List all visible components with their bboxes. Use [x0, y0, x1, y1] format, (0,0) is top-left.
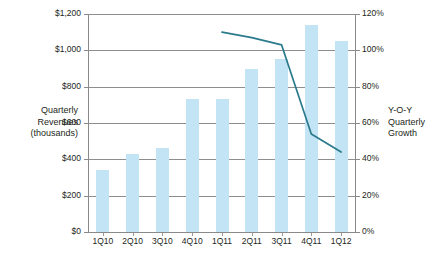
right-axis-tick — [356, 159, 360, 160]
right-axis-tick-label: 100% — [362, 45, 384, 54]
right-axis-tick — [356, 14, 360, 15]
right-axis-tick-label: 120% — [362, 9, 384, 18]
right-axis-tick-label: 80% — [362, 82, 379, 91]
right-axis-tick — [356, 196, 360, 197]
left-axis-tick-label: $1,000 — [55, 45, 81, 54]
left-axis-tick-label: $600 — [62, 118, 81, 127]
right-axis-tick-label: 20% — [362, 191, 379, 200]
growth-line-path — [222, 32, 341, 152]
growth-line-series — [88, 14, 356, 233]
right-axis-tick — [356, 232, 360, 233]
right-axis-tick — [356, 87, 360, 88]
right-axis-tick-label: 0% — [362, 227, 374, 236]
chart-container: Quarterly Revenues (thousands) Y-O-Y Qua… — [0, 0, 430, 254]
right-axis-tick — [356, 123, 360, 124]
left-axis-tick-label: $1,200 — [55, 9, 81, 18]
right-axis-tick-label: 60% — [362, 118, 379, 127]
left-axis-tick-label: $200 — [62, 191, 81, 200]
plot-area — [88, 14, 356, 232]
right-axis-tick-labels: 0%20%40%60%80%100%120% — [362, 0, 402, 254]
right-axis-tick — [356, 50, 360, 51]
left-axis-tick-label: $400 — [62, 154, 81, 163]
left-axis-tick-label: $800 — [62, 82, 81, 91]
right-axis-tick-label: 40% — [362, 154, 379, 163]
left-axis-tick-label: $0 — [72, 227, 81, 236]
x-axis-tick-label: 1Q12 — [321, 236, 361, 246]
